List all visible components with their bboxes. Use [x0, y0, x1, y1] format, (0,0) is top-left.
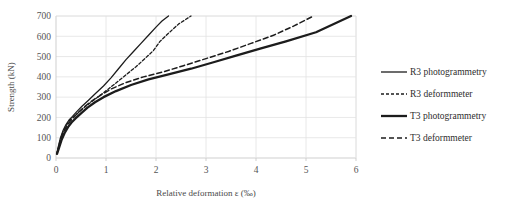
y-tick-label: 200	[37, 113, 52, 123]
x-axis-title: Relative deformation ε (‰)	[156, 188, 256, 198]
chart-gridlines	[56, 16, 356, 158]
chart-figure: 0100200300400500600700 0123456 Strength …	[0, 0, 514, 203]
y-tick-label: 500	[37, 52, 52, 62]
y-axis-tick-labels: 0100200300400500600700	[37, 11, 52, 163]
x-tick-label: 3	[204, 165, 209, 175]
series-line-3	[57, 16, 351, 154]
legend-label-1: R3 photogrammetry	[410, 67, 487, 77]
y-tick-label: 600	[37, 32, 52, 42]
x-tick-label: 2	[154, 165, 159, 175]
y-tick-label: 300	[37, 92, 52, 102]
y-axis-title: Strength (kN)	[6, 62, 16, 112]
y-tick-label: 100	[37, 133, 52, 143]
legend-label-2: R3 deformmeter	[410, 89, 473, 99]
y-tick-label: 700	[37, 11, 52, 21]
y-tick-label: 400	[37, 72, 52, 82]
x-tick-label: 0	[54, 165, 59, 175]
chart-series-layer	[57, 16, 351, 154]
x-tick-label: 6	[354, 165, 359, 175]
stress-strain-line-chart: 0100200300400500600700 0123456 Strength …	[0, 0, 514, 203]
legend-label-4: T3 deformmeter	[410, 133, 473, 143]
chart-legend: R3 photogrammetryR3 deformmeterT3 photog…	[381, 67, 487, 143]
x-axis-tick-labels: 0123456	[54, 158, 359, 175]
x-tick-label: 1	[104, 165, 109, 175]
x-tick-label: 5	[304, 165, 309, 175]
x-tick-label: 4	[254, 165, 259, 175]
legend-label-3: T3 photogrammetry	[410, 111, 486, 121]
y-tick-label: 0	[46, 153, 51, 163]
